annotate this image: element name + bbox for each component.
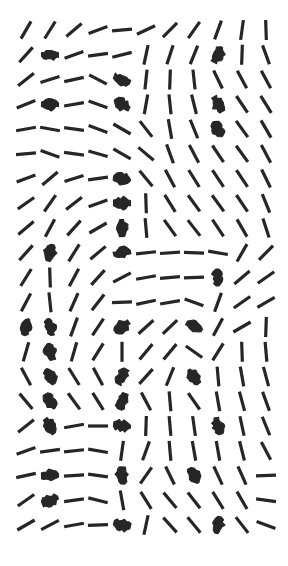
director-segment bbox=[136, 252, 156, 254]
director-field-canvas bbox=[0, 0, 288, 566]
director-segment bbox=[160, 277, 180, 279]
director-segment bbox=[64, 475, 84, 476]
director-segment bbox=[146, 416, 147, 436]
director-segment bbox=[49, 292, 51, 312]
director-segment bbox=[217, 367, 219, 387]
director-segment bbox=[112, 302, 132, 303]
director-segment bbox=[64, 450, 84, 452]
director-segment bbox=[184, 277, 204, 278]
director-segment bbox=[16, 153, 36, 155]
director-segment bbox=[266, 20, 267, 40]
director-segment bbox=[266, 317, 267, 337]
director-segment bbox=[169, 391, 171, 411]
director-segment bbox=[193, 70, 195, 90]
director-segment bbox=[169, 441, 171, 461]
director-segment-bold bbox=[212, 269, 223, 286]
director-segment bbox=[265, 342, 267, 362]
director-segment bbox=[242, 45, 243, 65]
director-field-plot bbox=[0, 0, 288, 566]
director-segment bbox=[184, 252, 204, 253]
director-segment bbox=[170, 70, 171, 90]
director-segment bbox=[146, 193, 147, 213]
director-segment bbox=[145, 70, 147, 90]
director-segment bbox=[145, 218, 147, 238]
director-segment bbox=[169, 94, 171, 114]
director-segment bbox=[256, 475, 276, 476]
director-segment bbox=[88, 525, 108, 526]
director-segment bbox=[112, 29, 132, 31]
director-segment bbox=[50, 268, 51, 288]
director-segment bbox=[169, 416, 171, 436]
director-segment bbox=[160, 252, 180, 253]
director-segment bbox=[242, 342, 243, 362]
